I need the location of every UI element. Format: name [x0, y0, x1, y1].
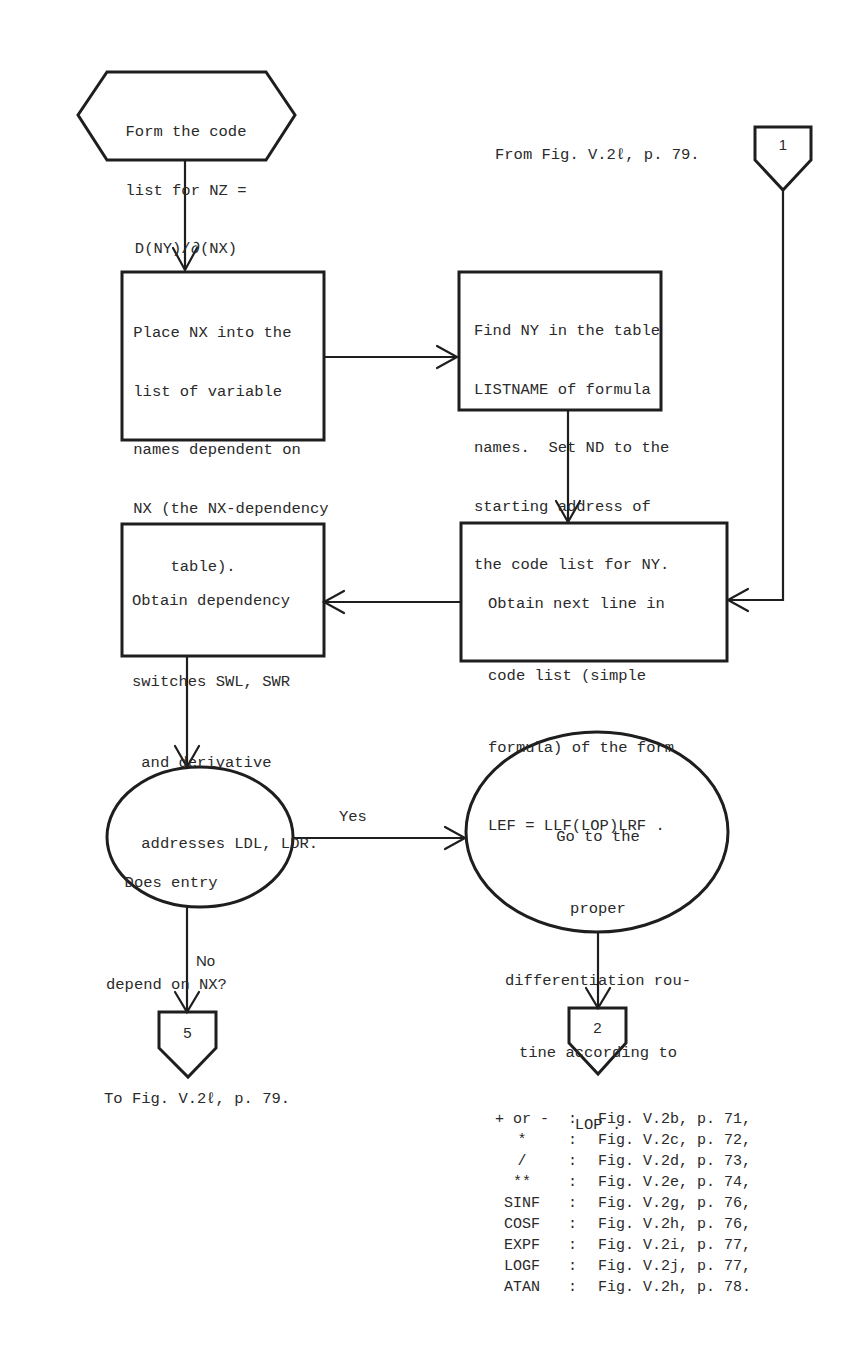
connector-1-number: 1 — [755, 136, 811, 153]
decision-line: depend on NX? — [106, 968, 227, 1002]
goto-line: tine according to — [476, 1041, 720, 1065]
obtain-next-line: formula) of the form — [488, 736, 674, 760]
table-colon: : — [568, 1278, 598, 1298]
obtain-next-line: code list (simple — [488, 664, 674, 688]
decision-text: Does entry depend on NX? — [106, 798, 227, 1036]
start-text: Form the code list for NZ = D(NY)/∂(NX) — [88, 84, 284, 279]
connector-5-number: 5 — [159, 1024, 216, 1041]
table-ref: Fig. V.2h, p. 78. — [598, 1279, 751, 1296]
connector-1-note: From Fig. V.2ℓ, p. 79. — [495, 146, 700, 166]
connector-5-note: To Fig. V.2ℓ, p. 79. — [104, 1090, 290, 1110]
goto-line: differentiation rou- — [476, 969, 720, 993]
yes-label: Yes — [339, 808, 367, 828]
start-line: list for NZ = — [88, 182, 284, 202]
table-row: ATAN:Fig. V.2h, p. 78. — [440, 1258, 751, 1317]
goto-line: Go to the — [476, 825, 720, 849]
edge-connector1-to-next — [728, 190, 783, 600]
start-line: Form the code — [88, 123, 284, 143]
start-line: D(NY)/∂(NX) — [88, 240, 284, 260]
obtain-next-line: Obtain next line in — [488, 592, 674, 616]
obtain-dep-line: switches SWL, SWR — [132, 669, 318, 696]
place-nx-line: list of variable — [124, 383, 329, 403]
obtain-dep-line: Obtain dependency — [132, 588, 318, 615]
find-ny-line: names. Set ND to the — [474, 439, 669, 459]
no-label: No — [196, 952, 215, 969]
goto-line: proper — [476, 897, 720, 921]
decision-line: Does entry — [106, 866, 227, 900]
find-ny-line: LISTNAME of formula — [474, 381, 669, 401]
find-ny-line: starting address of — [474, 498, 669, 518]
obtain-dep-line: and derivative — [132, 750, 318, 777]
table-op: ATAN — [476, 1278, 568, 1298]
place-nx-line: names dependent on — [124, 441, 329, 461]
place-nx-line: NX (the NX-dependency — [124, 500, 329, 520]
connector-2-number: 2 — [569, 1019, 626, 1036]
find-ny-line: Find NY in the table — [474, 322, 669, 342]
place-nx-line: Place NX into the — [124, 324, 329, 344]
